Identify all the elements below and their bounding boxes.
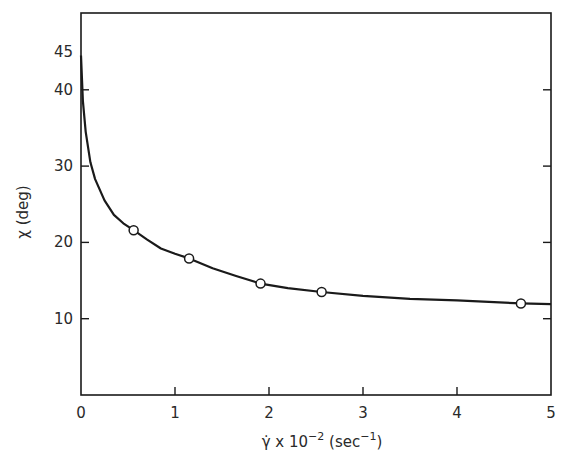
data-point-marker — [317, 287, 326, 296]
x-tick-label: 0 — [76, 404, 86, 422]
curve-line — [81, 56, 551, 305]
y-tick-label: 45 — [54, 43, 73, 61]
x-tick-label: 1 — [170, 404, 180, 422]
data-point-marker — [129, 226, 138, 235]
fitted-curve — [81, 56, 551, 305]
x-tick-label: 4 — [452, 404, 462, 422]
y-tick-label: 20 — [54, 233, 73, 251]
x-axis-ticks: 012345 — [76, 387, 556, 422]
x-tick-label: 2 — [264, 404, 274, 422]
y-axis-ticks: 1020304045 — [54, 43, 551, 328]
plot-frame — [81, 13, 551, 395]
plot-border — [81, 13, 551, 395]
y-tick-label: 10 — [54, 310, 73, 328]
data-point-marker — [516, 299, 525, 308]
x-tick-label: 5 — [546, 404, 556, 422]
y-axis-label-text: χ (deg) — [14, 185, 32, 238]
data-point-marker — [185, 254, 194, 263]
x-label-base: γ̇ x 10 — [262, 433, 308, 451]
chart: 1020304045 012345 χ (deg) γ̇ x 10−2 (sec… — [0, 0, 563, 471]
x-label-unit: (sec — [324, 433, 360, 451]
x-axis-label: γ̇ x 10−2 (sec−1) — [262, 430, 383, 451]
y-tick-label: 30 — [54, 157, 73, 175]
x-label-unit-exponent: −1 — [360, 430, 376, 443]
x-axis-label-text: γ̇ x 10−2 (sec−1) — [262, 430, 383, 451]
data-point-marker — [256, 279, 265, 288]
y-axis-label: χ (deg) — [14, 185, 32, 238]
x-label-exponent: −2 — [308, 430, 324, 443]
data-points — [129, 226, 525, 308]
y-tick-label: 40 — [54, 81, 73, 99]
x-tick-label: 3 — [358, 404, 368, 422]
x-label-close: ) — [376, 433, 382, 451]
